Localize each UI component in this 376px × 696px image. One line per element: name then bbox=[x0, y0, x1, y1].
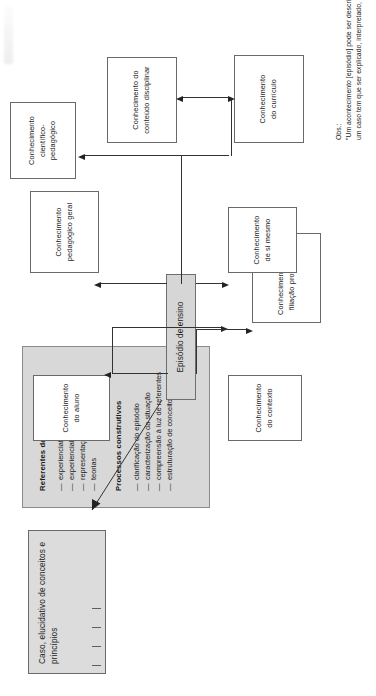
tick-mark bbox=[92, 665, 101, 666]
tick-mark bbox=[92, 627, 101, 628]
node-conhecimento-de-si-mesmo: Conhecimentode si mesmo bbox=[228, 207, 297, 273]
node-label: Conhecimentodo currículo bbox=[258, 75, 279, 124]
node-conhecimento-cientifico-pedagogico: Conhecimentocientífico-pedagógico bbox=[10, 102, 76, 179]
connector-line bbox=[99, 283, 167, 284]
node-label: Conhecimentocientífico-pedagógico bbox=[27, 105, 59, 176]
node-label: Conhecimentopedagógico geral bbox=[54, 203, 75, 261]
arrowhead-to-pedagogico-geral bbox=[94, 282, 101, 288]
connector-line bbox=[112, 328, 113, 374]
tick-mark bbox=[92, 646, 101, 647]
connector-line bbox=[112, 373, 168, 374]
connector-line bbox=[181, 97, 231, 98]
node-label: Conhecimentode si mesmo bbox=[252, 216, 273, 265]
diagram-canvas: Caso, elucidativo de conceitos e princíp… bbox=[0, 0, 376, 696]
connector-line bbox=[112, 327, 170, 328]
connector-line bbox=[181, 155, 229, 156]
observation-note: Obs.: "Um acontecimento [episódio] pode … bbox=[334, 0, 364, 140]
node-conhecimento-do-aluno: Conhecimentodo aluno bbox=[33, 375, 110, 441]
connector-line bbox=[181, 156, 182, 274]
arrowhead-to-filiacao bbox=[246, 328, 253, 334]
connector-line bbox=[196, 329, 248, 330]
scan-artifact bbox=[4, 6, 13, 64]
diagram-page: Caso, elucidativo de conceitos e princíp… bbox=[0, 0, 376, 696]
central-node-label: Episódio de ensino bbox=[175, 302, 187, 373]
connector-line bbox=[196, 283, 224, 284]
arrowhead-to-conteudo-disciplinar bbox=[176, 96, 183, 102]
connector-line bbox=[170, 327, 222, 328]
node-conhecimento-do-curriculo: Conhecimentodo currículo bbox=[234, 55, 304, 143]
tick-mark bbox=[92, 608, 101, 609]
node-conhecimento-do-conteudo-disciplinar: Conhecimento doconteúdo disciplinar bbox=[107, 57, 177, 143]
legend-heading-processos: Processos construtivos bbox=[113, 361, 125, 491]
node-conhecimento-do-contexto: Conhecimentodo contexto bbox=[228, 375, 302, 441]
case-node-label: Caso, elucidativo de conceitos e princíp… bbox=[36, 540, 60, 664]
arrowhead-to-si-mesmo bbox=[222, 282, 229, 288]
node-conhecimento-pedagogico-geral: Conhecimentopedagógico geral bbox=[30, 191, 99, 273]
case-node-tickmarks bbox=[92, 608, 101, 666]
note-line-2: um caso tem que ser explicado, interpret… bbox=[354, 0, 364, 140]
arrowhead-to-aluno bbox=[104, 372, 111, 378]
legend-item: clarificação do episódio bbox=[131, 361, 142, 491]
connector-line bbox=[84, 155, 182, 156]
connector-line bbox=[196, 330, 197, 374]
connector-line bbox=[181, 274, 182, 284]
node-label: Conhecimentodo aluno bbox=[61, 384, 82, 433]
connector-line bbox=[231, 98, 232, 156]
legend-item: compreensão à luz de referentes bbox=[153, 361, 164, 491]
node-label: Conhecimento doconteúdo disciplinar bbox=[131, 66, 152, 133]
central-node-episodio-de-ensino: Episódio de ensino bbox=[166, 274, 196, 400]
arrowhead-to-cientifico-pedagogico bbox=[78, 154, 85, 160]
node-label: Conhecimentodo contexto bbox=[254, 384, 275, 433]
note-label: Obs.: bbox=[334, 0, 344, 140]
arrowhead-to-curriculo bbox=[228, 96, 235, 102]
legend-item: caracterização da situação bbox=[142, 361, 153, 491]
note-line-1: "Um acontecimento [episódio] pode ser de… bbox=[344, 0, 354, 140]
